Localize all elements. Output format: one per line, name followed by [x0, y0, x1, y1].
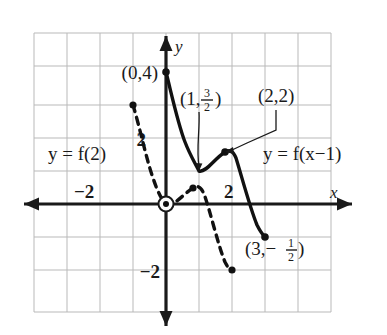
dashed-local-max-dot — [189, 184, 196, 191]
graph-figure: y x −2 2 2 −2 (0,4) (1, 3 2 ) — [0, 0, 387, 335]
label-3-neg-half-denominator: 2 — [288, 250, 294, 264]
label-1-three-halves-numerator: 3 — [204, 86, 210, 100]
label-3-neg-half-close: ) — [298, 238, 304, 260]
y-tick-label-neg2: −2 — [140, 261, 160, 282]
coordinate-plane-svg: y x −2 2 2 −2 (0,4) (1, 3 2 ) — [0, 0, 387, 335]
label-point-0-4: (0,4) — [122, 62, 158, 84]
dashed-right-endpoint-dot — [228, 266, 235, 273]
label-3-neg-half-numerator: 1 — [288, 236, 294, 250]
solid-point-0-4-dot — [162, 68, 170, 76]
x-tick-label-neg2: −2 — [74, 181, 94, 202]
label-2-2-text: (2,2) — [258, 85, 294, 107]
page-background — [0, 0, 387, 335]
y-axis-label: y — [173, 37, 183, 56]
label-3-neg-half-open: (3,− — [245, 238, 276, 260]
origin-dot — [163, 201, 169, 207]
dashed-left-endpoint-dot — [129, 101, 136, 108]
label-1-three-halves-open: (1, — [180, 88, 201, 110]
x-axis-label: x — [329, 183, 338, 202]
label-1-three-halves-denominator: 2 — [204, 100, 210, 114]
label-solid-curve: y = f(x−1) — [263, 143, 341, 165]
x-tick-label-2: 2 — [224, 181, 234, 202]
label-dashed-curve: y = f(2) — [48, 143, 106, 165]
label-1-three-halves-close: ) — [215, 88, 221, 110]
